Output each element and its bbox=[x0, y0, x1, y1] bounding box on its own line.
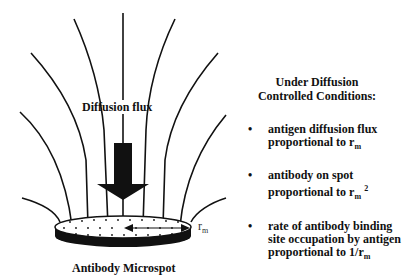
bullet-antibody: antibody on spot proportional to rm 2 bbox=[240, 169, 408, 203]
antibody-microspot-label: Antibody Microspot bbox=[72, 261, 175, 276]
conditions-panel: Under Diffusion Controlled Conditions: a… bbox=[240, 75, 408, 263]
diffusion-flux-label: Diffusion flux bbox=[82, 100, 152, 115]
bullet-flux: antigen diffusion flux proportional to r… bbox=[240, 123, 408, 153]
panel-title: Under Diffusion Controlled Conditions: bbox=[226, 75, 408, 103]
diffusion-diagram bbox=[0, 0, 240, 280]
disk bbox=[55, 216, 191, 247]
radius-label: rm bbox=[198, 219, 208, 235]
bullet-binding-rate: rate of antibody binding site occupation… bbox=[240, 220, 408, 263]
